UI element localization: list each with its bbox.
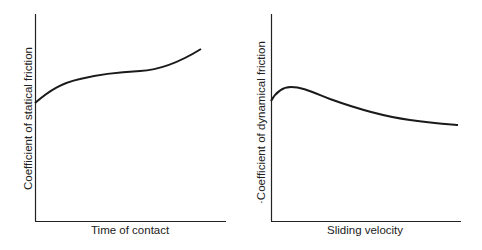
left-chart bbox=[35, 14, 226, 222]
left-curve bbox=[35, 49, 201, 103]
left-x-axis-label: Time of contact bbox=[91, 224, 169, 236]
right-curve bbox=[271, 87, 458, 125]
right-chart bbox=[271, 14, 461, 222]
right-y-axis-label: ·Coefficient of dynamical friction bbox=[255, 41, 267, 204]
right-x-axis-label: Sliding velocity bbox=[327, 224, 403, 236]
left-y-axis-label: Coefficient of statical friction bbox=[22, 47, 34, 190]
charts-canvas bbox=[0, 0, 482, 250]
